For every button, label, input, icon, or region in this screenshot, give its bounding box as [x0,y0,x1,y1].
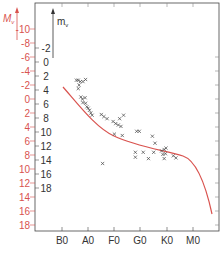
mv-abs-tick: -8 [21,38,30,49]
star-marker [172,154,175,157]
star-marker [121,134,124,137]
mv-abs-tick: 18 [19,220,31,231]
mv-app-tick: 8 [43,113,49,124]
star-marker [101,162,104,165]
star-marker [151,135,154,138]
arrow-up-icon [51,8,55,14]
main-sequence-curve [63,87,212,214]
star-markers [75,78,178,165]
star-marker [164,147,167,150]
star-marker [100,113,103,116]
mv-abs-tick: 14 [19,192,31,203]
mv-abs-tick: 16 [19,206,31,217]
mv-app-tick: 14 [40,155,52,166]
mv-abs-tick: 6 [24,136,30,147]
mv-app-tick: 10 [40,127,52,138]
mv-absolute-axis-label: Mv [3,13,15,25]
star-marker [153,142,156,145]
star-marker [84,102,87,105]
mv-app-tick: 18 [40,183,52,194]
star-marker [134,156,137,159]
star-marker [77,87,80,90]
x-tick-label: M0 [186,235,200,246]
mv-abs-tick: 12 [19,178,31,189]
star-marker [111,120,114,123]
top-ticks [62,3,193,7]
star-marker [174,156,177,159]
star-marker [134,151,137,154]
star-marker [122,114,125,117]
mv-app-tick: -2 [42,43,51,54]
mv-abs-tick: 0 [24,94,30,105]
star-marker [77,84,80,87]
x-tick-label: A0 [82,235,95,246]
mv-abs-tick: 4 [24,122,30,133]
star-marker [161,153,164,156]
star-marker [152,151,155,154]
mv-abs-tick: 10 [19,164,31,175]
x-tick-label: G0 [133,235,147,246]
star-marker [81,80,84,83]
mv-app-tick: 0 [43,57,49,68]
star-marker [138,130,141,133]
mv-abs-tick: -4 [21,66,30,77]
arrow-up-icon [15,7,19,13]
star-marker [113,133,116,136]
mv-abs-tick: 8 [24,150,30,161]
mv-apparent-axis-label: mv [57,16,68,28]
star-marker [84,78,87,81]
mv-abs-tick: -6 [21,52,30,63]
mv-abs-tick: 2 [24,108,30,119]
plot-frame [35,3,219,231]
mv-abs-tick: -2 [21,80,30,91]
star-marker [164,152,167,155]
hr-diagram-chart: B0 A0 F0 G0 K0 M0 Mv -10 -8 -6 -4 -2 0 2 [0,0,221,253]
star-marker [142,151,145,154]
x-axis-labels: B0 A0 F0 G0 K0 M0 [56,235,200,246]
star-marker [81,101,84,104]
star-marker [79,95,82,98]
star-marker [102,115,105,118]
x-tick-label: F0 [108,235,120,246]
mv-app-tick: 4 [43,85,49,96]
x-tick-label: K0 [161,235,174,246]
mv-app-tick: 16 [40,169,52,180]
bottom-ticks [62,227,193,231]
star-marker [163,157,166,160]
right-ticks [215,57,219,225]
mv-app-tick: 12 [40,141,52,152]
mv-apparent-axis: mv -2 0 2 4 6 8 10 12 14 16 18 [35,8,68,194]
star-marker [147,157,150,160]
mv-absolute-axis: Mv -10 -8 -6 -4 -2 0 2 4 6 8 10 12 14 16 [3,7,35,231]
mv-app-tick: 6 [43,99,49,110]
star-marker [118,117,121,120]
x-tick-label: B0 [56,235,69,246]
mv-abs-tick: -10 [16,24,31,35]
star-marker [105,117,108,120]
mv-app-tick: 2 [43,71,49,82]
